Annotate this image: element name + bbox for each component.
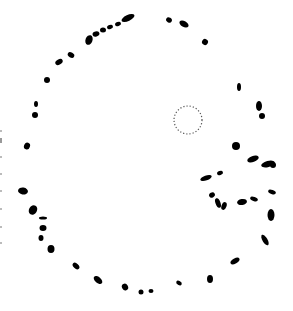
blob bbox=[207, 275, 213, 283]
edge-marks bbox=[0, 128, 4, 248]
blob bbox=[270, 162, 276, 168]
blob bbox=[139, 290, 144, 295]
blob bbox=[44, 77, 50, 83]
blob bbox=[39, 235, 44, 241]
blob bbox=[34, 101, 38, 107]
blob bbox=[39, 217, 47, 220]
blob-ring-image bbox=[0, 0, 293, 311]
blob bbox=[259, 113, 265, 119]
background bbox=[0, 0, 293, 311]
blob bbox=[32, 112, 38, 118]
blob bbox=[40, 225, 47, 231]
blob bbox=[48, 245, 55, 253]
blob bbox=[237, 83, 241, 91]
blob bbox=[100, 28, 106, 33]
blob bbox=[256, 101, 262, 111]
blob bbox=[232, 142, 240, 150]
blob bbox=[268, 209, 275, 221]
blob bbox=[149, 289, 154, 293]
